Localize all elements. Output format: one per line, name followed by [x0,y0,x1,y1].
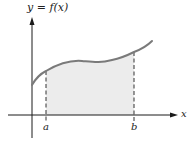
upper-bound-label: b [131,122,137,132]
function-label: y = f(x) [27,2,68,13]
lower-bound-label: a [43,122,49,132]
area-under-curve-diagram [0,0,195,146]
x-axis-label: x [181,109,187,119]
y-axis-arrow-icon [30,17,35,25]
x-axis-arrow-icon [170,113,178,118]
